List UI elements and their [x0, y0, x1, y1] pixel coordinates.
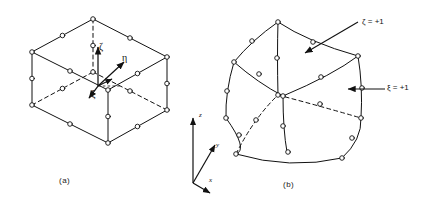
node-midside	[225, 89, 230, 94]
node-corner	[359, 116, 364, 121]
node-corner	[30, 103, 35, 108]
node-corner	[281, 94, 286, 99]
panel-a-element	[30, 17, 170, 146]
node-midside	[68, 122, 73, 127]
node-midside	[350, 136, 355, 141]
node-corner	[91, 17, 96, 22]
node-midside	[68, 69, 73, 74]
node-midside	[135, 124, 140, 129]
node-midside	[30, 76, 35, 81]
node-corner	[276, 93, 281, 98]
node-corner	[165, 108, 170, 113]
node-corner	[340, 156, 345, 161]
panel-b-nodes	[224, 20, 365, 161]
node-midside	[237, 133, 242, 138]
node-midside	[254, 118, 259, 123]
node-midside	[257, 72, 262, 77]
node-midside	[165, 81, 170, 86]
node-midside	[319, 75, 324, 80]
zeta-face-annotation: ζ = +1	[362, 17, 384, 26]
node-corner	[91, 70, 96, 75]
node-midside	[60, 86, 65, 91]
x-axis-arrow	[193, 183, 210, 193]
node-midside	[275, 56, 280, 61]
panel-a-solid-edges	[32, 19, 167, 143]
node-corner	[276, 20, 281, 25]
node-corner	[224, 116, 229, 121]
node-corner	[106, 88, 111, 93]
eta-axis-arrow	[98, 62, 124, 86]
zeta-face-leader-arrow	[305, 22, 358, 53]
panel-a-hidden-edges	[32, 19, 167, 110]
panel-b-caption: (b)	[283, 180, 294, 189]
zeta-axis-label: ζ	[99, 41, 103, 52]
panel-b-element	[224, 20, 365, 163]
panel-b-hidden-edges	[236, 95, 361, 154]
xi-face-annotation: ξ = +1	[387, 83, 409, 92]
node-midside	[318, 102, 323, 107]
x-axis-label: x	[209, 176, 212, 184]
node-midside	[281, 124, 286, 129]
xi-axis-label: ξ	[91, 88, 95, 99]
node-corner	[106, 141, 111, 146]
node-corner	[232, 60, 237, 65]
node-corner	[165, 55, 170, 60]
node-midside	[106, 114, 111, 119]
y-axis-label: y	[216, 141, 219, 149]
node-midside	[286, 150, 291, 155]
node-corner	[30, 50, 35, 55]
eta-axis-label: η	[122, 52, 127, 63]
node-midside	[135, 71, 140, 76]
panel-b-solid-edges	[226, 22, 362, 163]
panel-a-nodes	[30, 17, 170, 146]
node-midside	[60, 33, 65, 38]
node-midside	[128, 36, 133, 41]
node-corner	[356, 54, 361, 59]
node-midside	[91, 43, 96, 48]
node-midside	[311, 40, 316, 45]
panel-a-caption: (a)	[59, 176, 70, 185]
node-midside	[250, 39, 255, 44]
panel-b-annotation-leaders	[305, 22, 385, 89]
node-corner	[234, 152, 239, 157]
z-axis-label: z	[199, 111, 202, 119]
node-midside	[360, 86, 365, 91]
node-midside	[128, 89, 133, 94]
